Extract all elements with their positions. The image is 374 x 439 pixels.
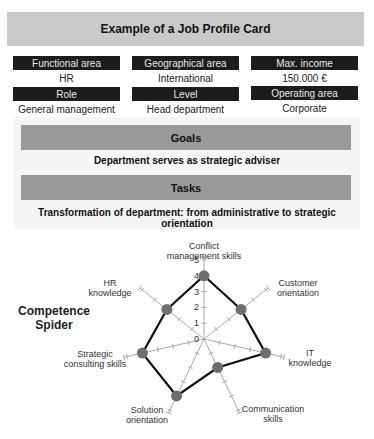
axis-label: IT: [306, 348, 315, 358]
axis-label: consulting skills: [64, 359, 127, 369]
axis-label: HR: [104, 278, 117, 288]
competence-spider-chart: 012345 Conflictmanagement skillsCustomer…: [0, 0, 374, 439]
axis-label: Solution: [131, 405, 164, 415]
axis-label: Customer: [278, 278, 317, 288]
axis-label: Conflict: [189, 241, 220, 251]
axis-tick: [126, 354, 127, 359]
spider-point: [161, 304, 172, 315]
scale-tick-label: 1: [194, 318, 199, 328]
axis-label: Communication: [242, 404, 305, 414]
spider-point: [236, 304, 247, 315]
scale-tick-label: 0: [194, 334, 199, 344]
spider-scale: 012345: [194, 255, 199, 344]
axis-tick: [280, 354, 281, 359]
axis-tick: [219, 340, 220, 345]
axis-label: knowledge: [88, 288, 131, 298]
axis-tick: [250, 347, 251, 352]
scale-tick-label: 3: [194, 287, 199, 297]
axis-label: Strategic: [77, 349, 113, 359]
axis-tick: [234, 344, 235, 349]
axis-tick: [157, 347, 158, 352]
axis-label: orientation: [126, 415, 168, 425]
axis-tick: [173, 344, 174, 349]
spider-axis: [124, 339, 204, 357]
spider-axis: [204, 339, 240, 413]
axis-label: orientation: [277, 288, 319, 298]
spider-point: [212, 362, 223, 373]
scale-tick-label: 4: [194, 271, 199, 281]
spider-axis-labels: Conflictmanagement skillsCustomerorienta…: [64, 241, 332, 425]
axis-tick: [188, 340, 189, 345]
spider-axis: [204, 339, 284, 357]
axis-label: management skills: [167, 251, 242, 261]
spider-point: [171, 390, 182, 401]
spider-axis: [204, 288, 268, 339]
spider-point: [199, 270, 210, 281]
spider-point: [137, 348, 148, 359]
spider-axis: [168, 339, 204, 413]
scale-tick-label: 2: [194, 302, 199, 312]
spider-point: [260, 348, 271, 359]
axis-label: skills: [263, 414, 283, 424]
axis-label: knowledge: [288, 358, 331, 368]
